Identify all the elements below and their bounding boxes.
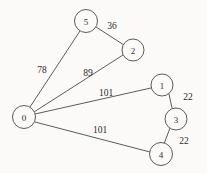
node-label-3: 3	[174, 115, 179, 125]
edge-0-2	[34, 55, 123, 112]
edge-weight-0-4: 101	[93, 125, 108, 135]
edge-weight-5-2: 36	[107, 21, 117, 31]
graph-diagram: 012345 7836891012222101	[0, 0, 207, 173]
edge-weight-0-2: 89	[83, 68, 93, 78]
edge-3-4	[164, 128, 170, 144]
node-label-5: 5	[84, 17, 89, 27]
edge-1-3	[169, 94, 172, 108]
graph-canvas-svg: 012345 7836891012222101	[0, 0, 207, 173]
edge-weight-1-3: 22	[183, 92, 193, 102]
node-label-0: 0	[22, 113, 27, 123]
edge-weight-0-1: 101	[99, 88, 114, 98]
edge-weight-3-4: 22	[179, 136, 189, 146]
edge-weight-0-5: 78	[37, 65, 47, 75]
node-label-1: 1	[160, 81, 165, 91]
node-label-4: 4	[159, 150, 164, 160]
node-label-2: 2	[131, 46, 136, 56]
edge-0-1	[35, 88, 151, 114]
